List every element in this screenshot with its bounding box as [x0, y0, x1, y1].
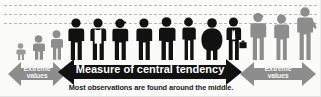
silhouette-center-heavyset — [199, 18, 225, 60]
silhouette-row — [0, 0, 321, 60]
silhouette-short-2 — [48, 30, 65, 60]
central-tendency-arrow — [58, 58, 242, 86]
subtitle-caption: Most observations are found around the m… — [60, 84, 242, 91]
central-tendency-infographic: Extreme values Measure of central tenden… — [0, 0, 321, 97]
silhouette-center-2 — [134, 18, 154, 60]
silhouette-center-slim — [179, 17, 198, 60]
silhouette-center-briefcase — [224, 17, 247, 60]
silhouette-center-3 — [156, 17, 177, 60]
silhouette-center-cap — [110, 18, 132, 60]
silhouette-tall-2 — [272, 14, 291, 60]
silhouette-tallest — [294, 7, 318, 60]
silhouette-center-1 — [66, 18, 86, 60]
silhouette-short-1 — [30, 35, 47, 60]
silhouette-center-apron — [88, 18, 108, 60]
extreme-values-right-arrow — [240, 58, 316, 90]
silhouette-tall-1 — [248, 12, 268, 60]
